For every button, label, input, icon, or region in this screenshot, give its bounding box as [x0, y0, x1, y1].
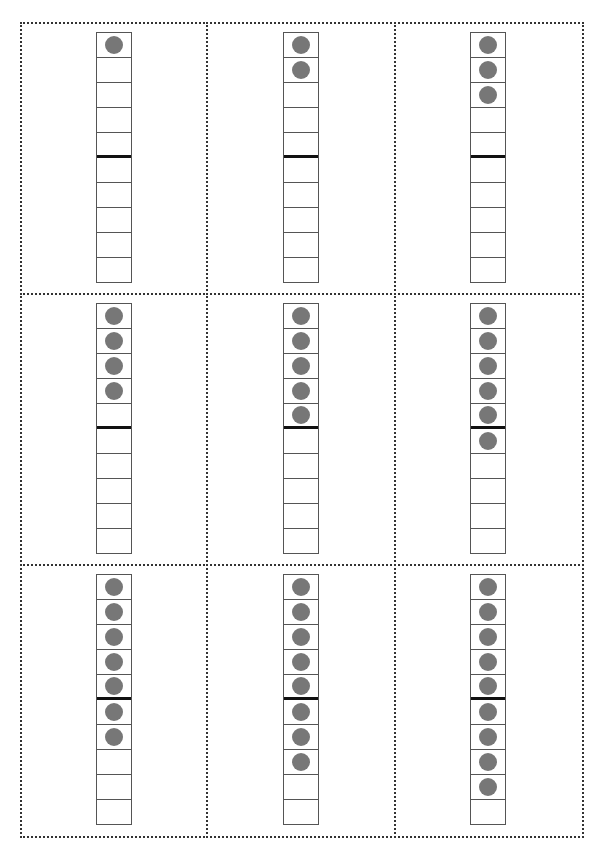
counter-dot-icon — [292, 406, 310, 424]
frame-cell — [471, 600, 505, 625]
counter-dot-icon — [479, 86, 497, 104]
counter-dot-icon — [292, 728, 310, 746]
frame-cell — [97, 58, 131, 83]
frame-cell — [97, 650, 131, 675]
counter-dot-icon — [479, 653, 497, 671]
ten-frame-card-sheet — [20, 22, 582, 836]
frame-cell — [284, 58, 318, 83]
frame-cell — [97, 800, 131, 824]
frame-cell — [471, 158, 505, 183]
frame-cell — [97, 775, 131, 800]
counter-dot-icon — [105, 703, 123, 721]
frame-cell — [97, 379, 131, 404]
frame-cell — [471, 800, 505, 824]
counter-dot-icon — [292, 382, 310, 400]
frame-cell — [284, 800, 318, 824]
frame-cell — [97, 479, 131, 504]
frame-cell — [284, 329, 318, 354]
frame-cell — [284, 479, 318, 504]
frame-cell — [97, 504, 131, 529]
ten-frame — [470, 574, 506, 825]
frame-cell — [471, 429, 505, 454]
counter-dot-icon — [479, 753, 497, 771]
frame-cell — [471, 108, 505, 133]
counter-dot-icon — [479, 307, 497, 325]
frame-cell — [471, 329, 505, 354]
ten-frame — [96, 303, 132, 554]
frame-cell — [97, 83, 131, 108]
frame-cell — [284, 379, 318, 404]
frame-cell — [97, 304, 131, 329]
frame-cell — [471, 454, 505, 479]
frame-cell — [97, 258, 131, 282]
frame-cell — [471, 58, 505, 83]
counter-dot-icon — [105, 603, 123, 621]
frame-cell — [284, 725, 318, 750]
counter-dot-icon — [292, 603, 310, 621]
frame-cell — [284, 304, 318, 329]
frame-cell — [284, 700, 318, 725]
frame-cell — [97, 600, 131, 625]
counter-dot-icon — [479, 628, 497, 646]
frame-cell — [471, 33, 505, 58]
frame-cell — [97, 429, 131, 454]
frame-cell — [284, 504, 318, 529]
frame-cell — [471, 750, 505, 775]
counter-dot-icon — [292, 677, 310, 695]
frame-cell — [97, 133, 131, 158]
counter-dot-icon — [292, 703, 310, 721]
frame-cell — [97, 404, 131, 429]
frame-cell — [97, 529, 131, 553]
counter-dot-icon — [292, 653, 310, 671]
ten-frame — [283, 32, 319, 283]
frame-cell — [284, 775, 318, 800]
counter-dot-icon — [105, 307, 123, 325]
frame-cell — [284, 529, 318, 553]
frame-cell — [471, 700, 505, 725]
counter-dot-icon — [479, 357, 497, 375]
counter-dot-icon — [292, 307, 310, 325]
counter-dot-icon — [105, 382, 123, 400]
frame-cell — [284, 625, 318, 650]
frame-cell — [284, 108, 318, 133]
counter-dot-icon — [479, 432, 497, 450]
frame-cell — [97, 33, 131, 58]
frame-cell — [284, 600, 318, 625]
frame-cell — [471, 775, 505, 800]
counter-dot-icon — [105, 728, 123, 746]
counter-dot-icon — [105, 357, 123, 375]
counter-dot-icon — [292, 61, 310, 79]
frame-cell — [471, 725, 505, 750]
counter-dot-icon — [479, 728, 497, 746]
frame-cell — [471, 304, 505, 329]
counter-dot-icon — [105, 653, 123, 671]
frame-cell — [97, 725, 131, 750]
frame-cell — [284, 233, 318, 258]
ten-frame — [96, 32, 132, 283]
ten-frame — [283, 303, 319, 554]
frame-cell — [97, 108, 131, 133]
frame-cell — [471, 625, 505, 650]
frame-cell — [471, 404, 505, 429]
frame-cell — [284, 83, 318, 108]
frame-cell — [284, 750, 318, 775]
frame-cell — [284, 454, 318, 479]
frame-cell — [471, 133, 505, 158]
frame-cell — [284, 208, 318, 233]
counter-dot-icon — [479, 61, 497, 79]
frame-cell — [97, 575, 131, 600]
counter-dot-icon — [479, 677, 497, 695]
frame-cell — [97, 675, 131, 700]
frame-cell — [97, 329, 131, 354]
frame-cell — [97, 354, 131, 379]
frame-cell — [284, 429, 318, 454]
frame-cell — [97, 233, 131, 258]
frame-cell — [471, 504, 505, 529]
frame-cell — [284, 650, 318, 675]
frame-cell — [284, 33, 318, 58]
frame-cell — [284, 404, 318, 429]
counter-dot-icon — [479, 578, 497, 596]
frame-cell — [471, 650, 505, 675]
frame-cell — [97, 700, 131, 725]
counter-dot-icon — [105, 578, 123, 596]
